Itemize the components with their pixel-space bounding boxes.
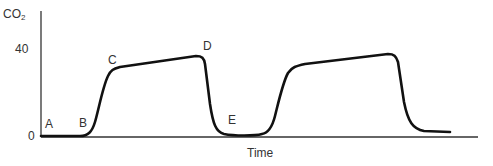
point-label-d: D	[203, 40, 212, 52]
y-tick-0: 0	[28, 130, 35, 142]
capnogram-waveform	[41, 54, 450, 136]
x-axis-label: Time	[247, 147, 273, 159]
point-label-a: A	[45, 118, 53, 130]
point-label-e: E	[228, 114, 236, 126]
y-axis-label: CO2	[3, 8, 25, 22]
point-label-b: B	[79, 117, 87, 129]
point-label-c: C	[108, 54, 117, 66]
y-tick-40: 40	[15, 43, 28, 55]
capnogram-plot	[0, 0, 493, 166]
